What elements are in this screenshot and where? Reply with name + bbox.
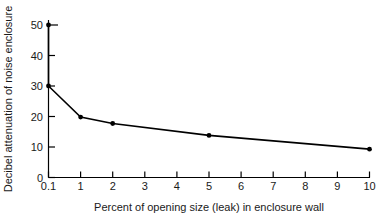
x-axis-ticks [49,172,370,178]
x-axis-tick-labels: 0.1 1 2 3 4 5 6 7 8 9 10 [41,180,376,192]
data-point [367,147,372,152]
data-point [110,121,115,126]
x-tick-label-4: 4 [174,180,180,192]
data-point [46,23,51,28]
chart-figure: 0 10 20 30 40 50 0.1 1 2 3 4 [0,0,385,219]
data-series-group [46,23,372,152]
x-tick-label-5: 5 [206,180,212,192]
y-tick-label-50: 50 [31,19,43,31]
x-tick-label-7: 7 [270,180,276,192]
series-markers [46,23,372,152]
x-tick-label-1: 1 [78,180,84,192]
data-point [207,133,212,138]
x-tick-label-0: 0.1 [41,180,56,192]
line-chart: 0 10 20 30 40 50 0.1 1 2 3 4 [0,0,385,219]
x-tick-label-6: 6 [238,180,244,192]
y-tick-label-10: 10 [31,141,43,153]
x-tick-label-8: 8 [302,180,308,192]
y-axis-tick-labels: 0 10 20 30 40 50 [31,19,43,184]
y-tick-label-30: 30 [31,80,43,92]
x-tick-label-2: 2 [110,180,116,192]
x-tick-label-3: 3 [142,180,148,192]
data-point [78,115,83,120]
y-tick-label-20: 20 [31,111,43,123]
data-point [46,84,51,89]
x-tick-label-9: 9 [334,180,340,192]
y-axis-title: Decibel attenuation of noise enclosure [2,6,14,193]
series-line [49,25,370,149]
y-axis-ticks [49,25,59,178]
y-tick-label-40: 40 [31,50,43,62]
x-axis-title: Percent of opening size (leak) in enclos… [94,201,324,213]
axis-lines [49,20,371,178]
x-tick-label-10: 10 [363,180,375,192]
